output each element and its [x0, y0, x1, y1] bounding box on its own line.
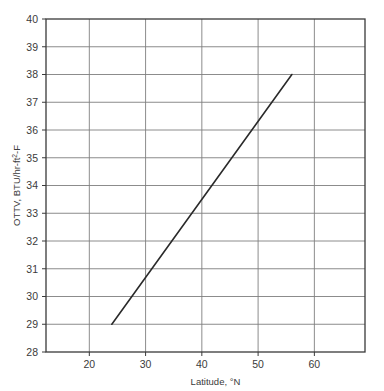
- x-tick-label: 60: [309, 358, 321, 370]
- chart-canvas: 28293031323334353637383940 2030405060 La…: [0, 0, 384, 391]
- y-tick-label: 32: [26, 235, 38, 247]
- y-tick-label: 37: [26, 96, 38, 108]
- y-tick-label: 40: [26, 13, 38, 25]
- y-tick-label: 30: [26, 290, 38, 302]
- x-axis-title: Latitude, °N: [191, 376, 241, 387]
- y-tick-label: 38: [26, 68, 38, 80]
- x-tick-label: 40: [196, 358, 208, 370]
- y-tick-label: 35: [26, 152, 38, 164]
- x-tick-label: 30: [140, 358, 152, 370]
- y-tick-label: 34: [26, 179, 38, 191]
- y-tick-label: 29: [26, 318, 38, 330]
- chart-figure: 28293031323334353637383940 2030405060 La…: [0, 0, 384, 391]
- y-tick-label: 33: [26, 207, 38, 219]
- y-tick-label: 31: [26, 263, 38, 275]
- y-tick-label: 28: [26, 346, 38, 358]
- x-tick-label: 20: [83, 358, 95, 370]
- y-tick-label: 39: [26, 41, 38, 53]
- x-tick-label: 50: [252, 358, 264, 370]
- y-tick-label: 36: [26, 124, 38, 136]
